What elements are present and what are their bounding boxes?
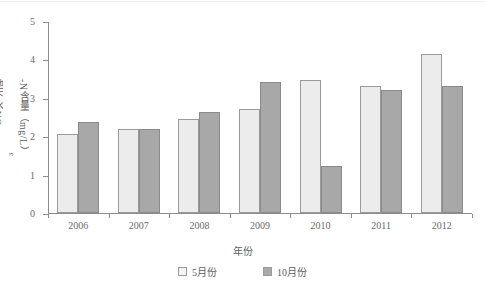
bar-2007-oct[interactable]	[139, 129, 160, 213]
y-axis-tick-3: 3	[43, 99, 48, 100]
bar-group-2007	[118, 22, 160, 213]
y-axis-tick-label-0: 0	[30, 209, 35, 219]
figure-top-rule	[0, 1, 485, 2]
bar-2007-may[interactable]	[118, 129, 139, 213]
y-axis-tick-label-5: 5	[30, 17, 35, 27]
y-axis-tick-label-2: 2	[30, 132, 35, 142]
y-axis-tick-label-3: 3	[30, 94, 35, 104]
y-axis-title: 地下水NO3-N含量（mg/L）	[2, 22, 18, 214]
y-axis-tick-label-4: 4	[30, 55, 35, 65]
y-axis-tick-1: 1	[43, 176, 48, 177]
legend-swatch-oct-icon	[263, 267, 272, 276]
legend-label-oct: 10月份	[277, 264, 307, 279]
x-axis-tick-4	[351, 214, 352, 218]
x-category-label-2010: 2010	[311, 220, 331, 231]
bar-2008-oct[interactable]	[199, 112, 220, 213]
y-axis-tick-2: 2	[43, 137, 48, 138]
x-category-label-2011: 2011	[371, 220, 391, 231]
bar-2006-may[interactable]	[57, 134, 78, 213]
y-axis-title-subscript: 3	[7, 153, 15, 157]
bar-2008-may[interactable]	[178, 119, 199, 213]
x-axis-line	[48, 213, 472, 214]
x-axis-tick-6	[472, 214, 473, 218]
x-category-label-2012: 2012	[432, 220, 452, 231]
bar-2011-may[interactable]	[360, 86, 381, 213]
x-category-label-2006: 2006	[68, 220, 88, 231]
bar-group-2010	[300, 22, 342, 213]
x-category-label-2009: 2009	[250, 220, 270, 231]
x-axis-tick-2	[230, 214, 231, 218]
bar-group-2008	[178, 22, 220, 213]
legend-swatch-may-icon	[178, 267, 187, 276]
x-axis-tick-1	[169, 214, 170, 218]
y-axis-title-suffix: -N含量（mg/L）	[16, 79, 31, 156]
x-category-label-2008: 2008	[189, 220, 209, 231]
x-axis-tick-3	[290, 214, 291, 218]
x-axis-tick-5	[411, 214, 412, 218]
bar-2009-may[interactable]	[239, 109, 260, 213]
y-axis-tick-5: 5	[43, 22, 48, 23]
bar-group-2009	[239, 22, 281, 213]
x-axis-tick-0	[109, 214, 110, 218]
chart-legend: 5月份 10月份	[0, 264, 485, 279]
legend-label-may: 5月份	[192, 264, 217, 279]
x-axis-title: 年份	[0, 243, 485, 258]
bar-2010-oct[interactable]	[321, 166, 342, 213]
legend-item-oct: 10月份	[263, 264, 307, 279]
y-axis-line	[48, 22, 49, 214]
y-axis-tick-4: 4	[43, 60, 48, 61]
bar-group-2012	[421, 22, 463, 213]
bar-2006-oct[interactable]	[78, 122, 99, 213]
bar-2011-oct[interactable]	[381, 90, 402, 213]
bar-2012-oct[interactable]	[442, 86, 463, 213]
legend-item-may: 5月份	[178, 264, 217, 279]
y-axis-title-prefix: 地下水NO	[0, 79, 5, 156]
chart-figure: 地下水NO3-N含量（mg/L） 012345 2006200720082009…	[0, 0, 485, 291]
bar-group-2006	[57, 22, 99, 213]
bar-2010-may[interactable]	[300, 80, 321, 213]
bar-2012-may[interactable]	[421, 54, 442, 213]
x-category-label-2007: 2007	[129, 220, 149, 231]
x-axis-tick-origin	[48, 214, 49, 218]
y-axis-tick-label-1: 1	[30, 171, 35, 181]
bar-2009-oct[interactable]	[260, 82, 281, 213]
plot-area: 012345	[48, 22, 472, 214]
bar-group-2011	[360, 22, 402, 213]
